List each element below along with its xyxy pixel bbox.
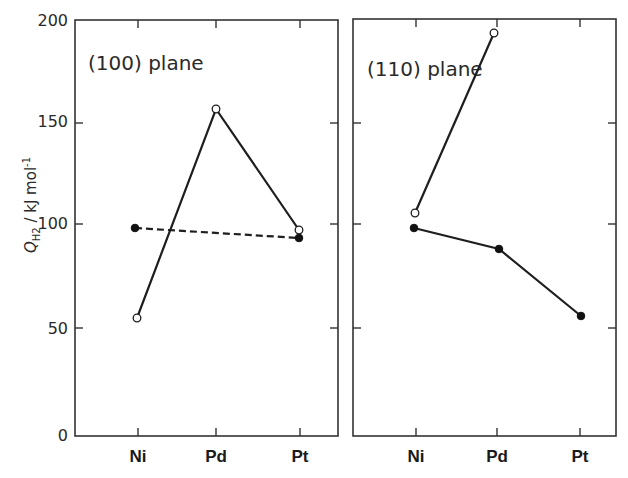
data-point-filled-ni [410,224,418,232]
data-point-open-ni [133,314,141,322]
y-label-sup: -1 [21,157,32,167]
svg-text:QH2 / kJ mol-1: QH2 / kJ mol-1 [21,157,42,253]
series-filled-line [135,228,299,238]
y-tick-100: 100 [37,214,68,233]
y-tick-200: 200 [37,11,68,30]
panel-title: (100) plane [88,51,204,75]
data-point-filled-pt [295,234,303,242]
y-tick-50: 50 [48,319,68,338]
panel-frame [353,19,616,436]
y-label-main: Q [22,241,40,253]
y-tick-150: 150 [37,112,68,131]
data-point-filled-pt [577,312,585,320]
category-pt: Pt [572,447,589,466]
data-point-open-pd [490,29,498,37]
data-point-open-ni [411,209,419,217]
category-pt: Pt [292,447,309,466]
category-pd: Pd [205,447,227,466]
category-ni: Ni [130,447,147,466]
series-filled-line [414,228,581,316]
chart-canvas: QH2 / kJ mol-1 0 50 100 150 200 (100) pl… [0,0,628,478]
panel-100-plane: (100) plane Ni Pd Pt [75,20,338,466]
data-point-filled-pd [495,245,503,253]
category-ni: Ni [408,447,425,466]
data-point-filled-ni [131,224,139,232]
series-open-line [137,109,299,318]
y-axis-label: QH2 / kJ mol-1 [21,157,42,253]
y-tick-0: 0 [58,426,68,445]
data-point-open-pd [212,105,220,113]
data-point-open-pt [295,226,303,234]
y-tick-labels: 0 50 100 150 200 [37,11,68,445]
panel-title: (110) plane [367,57,483,81]
panel-110-plane: (110) plane Ni Pd Pt [353,19,616,466]
category-pd: Pd [486,447,508,466]
